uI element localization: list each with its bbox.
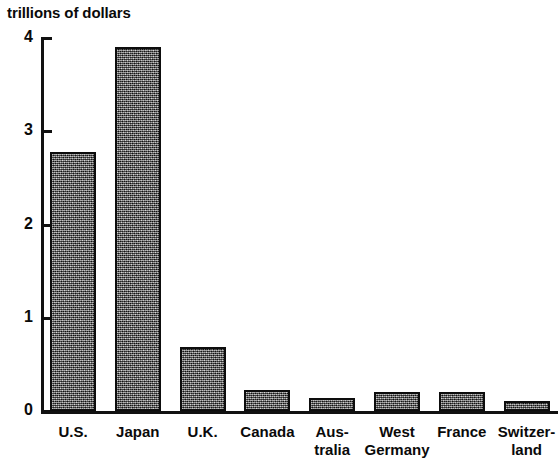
y-axis-tick-label-text: 2 — [7, 216, 33, 232]
y-axis-tick-label: 2 — [0, 216, 33, 232]
x-axis-tick-label: Switzer- land — [487, 423, 558, 459]
bar — [374, 392, 420, 411]
y-axis-tick-label-text: 4 — [7, 29, 33, 45]
y-axis-tick-label: 4 — [0, 29, 33, 45]
bar — [180, 347, 226, 411]
bar-chart: trillions of dollars 01234 U.S.JapanU.K.… — [0, 0, 558, 460]
y-axis-tick-label-text: 1 — [7, 309, 33, 325]
bar — [309, 398, 355, 411]
plot-area: 01234 U.S.JapanU.K.CanadaAus- traliaWest… — [0, 0, 558, 460]
y-axis-tick-label: 0 — [0, 402, 33, 418]
y-axis-tick-label-text: 0 — [7, 402, 33, 418]
y-axis-tick — [41, 130, 52, 133]
y-axis-tick-label: 1 — [0, 309, 33, 325]
x-axis-line — [41, 411, 558, 414]
y-axis-tick-label-text: 3 — [7, 122, 33, 138]
bar — [50, 152, 96, 411]
y-axis-tick-label: 3 — [0, 122, 33, 138]
bar — [244, 390, 290, 411]
bar — [439, 392, 485, 411]
y-axis-tick — [41, 37, 52, 40]
bar — [504, 401, 550, 411]
bar — [115, 47, 161, 411]
